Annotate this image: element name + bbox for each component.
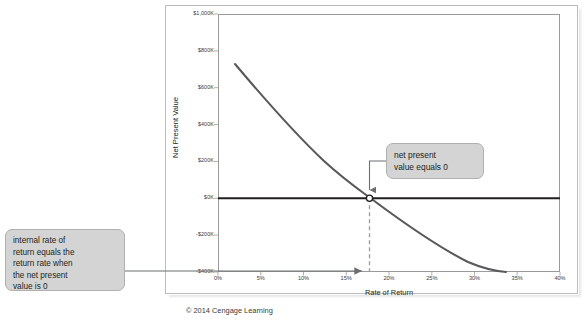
definition-callout-line4: the net present: [13, 270, 117, 282]
figure-stage: $1,000K $800K $600K $400K $200K $0K -$20…: [0, 0, 588, 325]
definition-callout-line1: internal rate of: [13, 235, 117, 247]
intersection-callout: net present value equals 0: [386, 143, 484, 179]
definition-callout: internal rate of return equals the retur…: [5, 229, 125, 291]
intersection-callout-line1: net present: [394, 149, 476, 161]
y-tick-marks: [214, 14, 218, 272]
x-tick-marks: [218, 272, 560, 276]
irr-point-marker: [366, 195, 372, 201]
copyright-footer: © 2014 Cengage Learning: [186, 306, 273, 315]
definition-callout-line2: return equals the: [13, 247, 117, 259]
definition-callout-line5: value is 0: [13, 281, 117, 293]
intersection-callout-connector: [370, 161, 387, 190]
definition-callout-line3: return rate when: [13, 258, 117, 270]
intersection-callout-line2: value equals 0: [394, 161, 476, 173]
